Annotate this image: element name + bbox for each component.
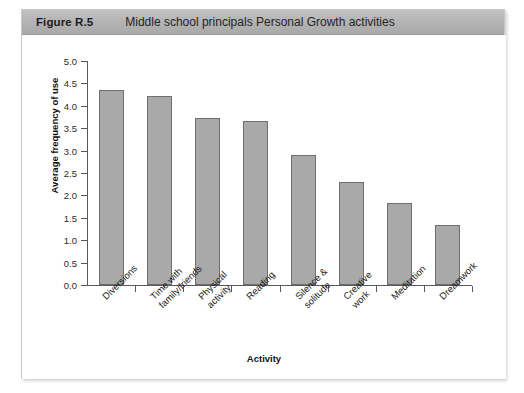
page-canvas: Figure R.5 Middle school principals Pers… xyxy=(0,0,524,393)
y-axis-tick-label: 2.5 xyxy=(64,168,77,179)
y-axis-tick-label: 2.0 xyxy=(64,190,77,201)
chart-plot-area: Average frequency of use 0.00.51.01.52.0… xyxy=(22,35,506,379)
bar xyxy=(147,96,172,285)
y-axis-tick-labels: 0.00.51.01.52.02.53.03.54.04.55.0 xyxy=(22,35,77,379)
bar xyxy=(243,121,268,285)
y-axis-line xyxy=(87,61,88,286)
y-axis-tick-label: 4.0 xyxy=(64,100,77,111)
figure-caption-label: Middle school principals Personal Growth… xyxy=(125,15,394,29)
y-axis-tick-label: 5.0 xyxy=(64,56,77,67)
x-axis-title: Activity xyxy=(22,353,506,364)
bar xyxy=(291,155,316,285)
y-axis-tick-label: 3.0 xyxy=(64,145,77,156)
bar xyxy=(99,90,124,285)
y-axis-tick-label: 0.5 xyxy=(64,257,77,268)
y-axis-tick-label: 1.5 xyxy=(64,212,77,223)
x-axis-tick xyxy=(424,286,425,292)
y-axis-tick-label: 0.0 xyxy=(64,280,77,291)
figure-card: Figure R.5 Middle school principals Pers… xyxy=(21,9,505,379)
figure-number-label: Figure R.5 xyxy=(36,16,93,28)
y-axis-tick-label: 1.0 xyxy=(64,235,77,246)
bar xyxy=(195,118,220,285)
x-axis-tick xyxy=(135,286,136,292)
bar xyxy=(339,182,364,285)
y-axis-tick-label: 3.5 xyxy=(64,123,77,134)
x-axis-tick xyxy=(472,286,473,292)
x-axis-tick xyxy=(280,286,281,292)
y-axis-tick-label: 4.5 xyxy=(64,78,77,89)
figure-header-bar: Figure R.5 Middle school principals Pers… xyxy=(22,10,504,35)
